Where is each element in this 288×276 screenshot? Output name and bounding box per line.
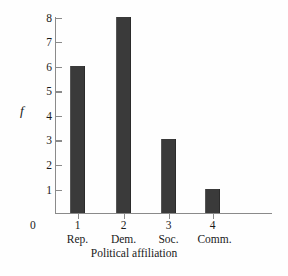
x-axis-title: Political affiliation (0, 247, 278, 260)
y-tick-label-5: 5 (36, 86, 52, 97)
y-axis-label: f (20, 104, 24, 118)
bar-soc (161, 139, 176, 212)
y-tick-3 (56, 140, 62, 141)
y-tick-2 (56, 165, 62, 166)
x-category-label-dem: Dem. (100, 233, 148, 246)
bar-chart-figure: f 8 7 6 5 4 3 2 1 0 1 2 3 4 Rep. Dem. So… (0, 0, 288, 276)
bar-rep (70, 66, 85, 213)
bar-dem (116, 17, 131, 213)
y-tick-6 (56, 67, 62, 68)
y-tick-label-6: 6 (36, 62, 52, 73)
bar-comm (205, 189, 220, 213)
y-tick-label-7: 7 (36, 37, 52, 48)
x-tick-label-4: 4 (203, 219, 223, 232)
y-tick-8 (56, 18, 62, 19)
x-category-label-comm: Comm. (191, 233, 239, 246)
x-tick-label-3: 3 (159, 219, 179, 232)
x-tick-label-2: 2 (114, 219, 134, 232)
y-tick-4 (56, 116, 62, 117)
y-tick-7 (56, 42, 62, 43)
y-tick-label-1: 1 (36, 185, 52, 196)
y-tick-label-4: 4 (36, 111, 52, 122)
x-tick-label-1: 1 (68, 219, 88, 232)
y-tick-label-3: 3 (36, 135, 52, 146)
x-axis-line (55, 213, 272, 215)
x-category-label-soc: Soc. (145, 233, 193, 246)
y-tick-label-8: 8 (36, 13, 52, 24)
y-tick-1 (56, 190, 62, 191)
y-tick-label-2: 2 (36, 160, 52, 171)
y-tick-5 (56, 91, 62, 92)
x-axis-origin-label: 0 (30, 219, 36, 232)
x-category-label-rep: Rep. (54, 233, 102, 246)
